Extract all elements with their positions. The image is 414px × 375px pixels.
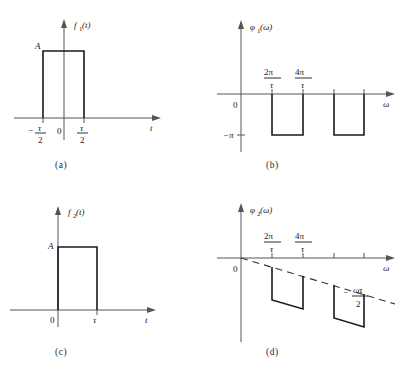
caption-d: (d) xyxy=(266,347,279,357)
x-axis-arrowhead-d xyxy=(386,255,395,261)
slope-label-den-d: 2 xyxy=(356,299,361,309)
tick-label-2-den-b: τ xyxy=(301,80,305,90)
caption-a: (a) xyxy=(55,160,67,170)
reference-line-d xyxy=(241,258,395,304)
tick-label-1-den-b: τ xyxy=(270,80,274,90)
panel-d: φ 2 (ω) ω 0 2π τ 4π τ − ωτ 2 xyxy=(207,187,414,375)
pulse-waveform-c xyxy=(58,247,97,310)
phase-pulse-2-b xyxy=(334,94,364,135)
y-axis-label-b: φ xyxy=(250,22,255,32)
x-axis-arrowhead-b xyxy=(386,91,395,97)
origin-label-b: 0 xyxy=(233,100,238,110)
tick-label-1-den-d: τ xyxy=(270,244,274,254)
tick-label-2-den-d: τ xyxy=(301,244,305,254)
panel-d-plot: φ 2 (ω) ω 0 2π τ 4π τ − ωτ 2 xyxy=(207,187,414,375)
tick-label-left-num-a: τ xyxy=(38,123,42,133)
tick-label-left-den-a: 2 xyxy=(38,135,43,145)
tick-label-1-num-d: 2π xyxy=(264,231,274,241)
origin-label-d: 0 xyxy=(233,264,238,274)
slope-label-num-d: ωτ xyxy=(353,285,363,295)
slope-label-sign-d: − xyxy=(343,287,348,297)
min-value-label-b: −π xyxy=(223,130,234,140)
x-axis-arrowhead-a xyxy=(152,115,161,121)
x-axis-label-c: t xyxy=(145,315,148,325)
origin-label-c: 0 xyxy=(50,315,55,325)
phase-pulse-1-b xyxy=(272,94,303,135)
y-axis-label-arg-d: (ω) xyxy=(260,205,272,215)
tick-label-right-num-a: τ xyxy=(80,123,84,133)
x-axis-arrowhead-c xyxy=(147,307,156,313)
x-axis-label-b: ω xyxy=(383,99,389,109)
tick-label-tau-c: τ xyxy=(93,315,97,325)
tick-label-minus-sign-a: − xyxy=(28,125,33,135)
panel-c: f 2 (t) A t 0 τ xyxy=(0,187,207,375)
panel-c-plot: f 2 (t) A t 0 τ xyxy=(0,187,207,375)
y-axis-label-arg-c: (t) xyxy=(76,207,85,217)
origin-label-a: 0 xyxy=(57,126,62,136)
y-axis-label-arg-b: (ω) xyxy=(260,22,272,32)
y-axis-label-a: f xyxy=(74,20,78,30)
panel-b: φ 1 (ω) ω 0 −π 2π τ 4π τ xyxy=(207,0,414,188)
phase-pulse-1-d xyxy=(272,267,303,309)
amplitude-label-a: A xyxy=(34,41,41,51)
tick-label-1-num-b: 2π xyxy=(264,67,274,77)
figure-container: f 1 (t) A t 0 − τ 2 τ 2 xyxy=(0,0,414,375)
x-axis-label-a: t xyxy=(150,123,153,133)
amplitude-label-c: A xyxy=(47,241,54,251)
panel-b-plot: φ 1 (ω) ω 0 −π 2π τ 4π τ xyxy=(207,0,414,188)
x-axis-label-d: ω xyxy=(383,263,389,273)
panel-a: f 1 (t) A t 0 − τ 2 τ 2 xyxy=(0,0,207,188)
y-axis-label-arg-a: (t) xyxy=(82,20,91,30)
y-axis-label-d: φ xyxy=(250,205,255,215)
caption-c: (c) xyxy=(55,347,67,357)
panel-a-plot: f 1 (t) A t 0 − τ 2 τ 2 xyxy=(0,0,207,188)
tick-label-2-num-d: 4π xyxy=(295,231,305,241)
y-axis-arrowhead-b xyxy=(238,20,244,29)
tick-label-right-den-a: 2 xyxy=(80,135,85,145)
y-axis-arrowhead-d xyxy=(238,203,244,212)
caption-b: (b) xyxy=(266,160,279,170)
y-axis-label-c: f xyxy=(68,207,72,217)
y-axis-arrowhead-c xyxy=(55,206,61,215)
y-axis-arrowhead-a xyxy=(61,19,67,28)
tick-label-2-num-b: 4π xyxy=(295,67,305,77)
